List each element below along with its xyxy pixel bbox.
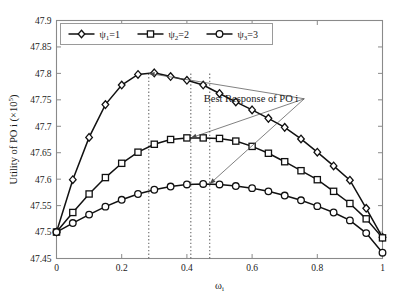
marker-square — [168, 136, 174, 142]
x-tick-label: 0.4 — [181, 263, 193, 273]
marker-square — [363, 216, 369, 222]
y-tick-label: 47.85 — [30, 42, 52, 52]
marker-circle — [70, 220, 77, 227]
marker-square — [151, 141, 157, 147]
legend[interactable]: ψ1=1ψ2=2ψ3=3 — [61, 24, 273, 45]
marker-circle — [281, 192, 288, 199]
marker-square — [331, 188, 337, 194]
marker-square — [200, 135, 206, 141]
y-tick-label: 47.9 — [35, 16, 52, 26]
annotation-label: Best Response of PO i — [204, 93, 299, 104]
marker-circle — [249, 185, 256, 192]
marker-square — [147, 31, 153, 37]
y-tick-label: 47.8 — [35, 69, 52, 79]
marker-circle — [118, 196, 125, 203]
y-axis-title-exponent: 5 — [7, 98, 15, 102]
x-tick-label: 1 — [380, 263, 385, 273]
marker-square — [298, 168, 304, 174]
x-tick-label: 0 — [54, 263, 59, 273]
marker-square — [184, 135, 190, 141]
marker-circle — [216, 181, 223, 188]
legend-label-value: =2 — [178, 29, 189, 40]
marker-circle — [233, 183, 240, 190]
y-tick-label: 47.7 — [35, 122, 52, 132]
marker-square — [70, 209, 76, 215]
marker-circle — [347, 217, 354, 224]
chart-figure: 47.4547.547.5547.647.6547.747.7547.847.8… — [0, 0, 405, 307]
marker-square — [347, 200, 353, 206]
marker-circle — [314, 203, 321, 210]
y-tick-label: 47.65 — [30, 148, 52, 158]
marker-circle — [167, 183, 174, 190]
marker-square — [86, 191, 92, 197]
marker-circle — [53, 229, 60, 236]
marker-circle — [135, 191, 142, 198]
marker-circle — [379, 249, 386, 256]
marker-square — [265, 150, 271, 156]
marker-circle — [330, 209, 337, 216]
y-tick-label: 47.55 — [30, 201, 52, 211]
y-axis-title: Utility of PO i (×105) — [7, 94, 20, 184]
marker-square — [233, 138, 239, 144]
marker-circle — [86, 211, 93, 218]
marker-square — [102, 174, 108, 180]
plot-background — [0, 0, 405, 307]
marker-square — [282, 159, 288, 165]
marker-square — [379, 235, 385, 241]
marker-square — [119, 160, 125, 166]
marker-circle — [102, 203, 109, 210]
legend-label-value: =3 — [247, 29, 258, 40]
x-axis-title-subscript: i — [222, 285, 224, 293]
marker-circle — [216, 31, 223, 38]
y-tick-label: 47.75 — [30, 95, 52, 105]
legend-label-value: =1 — [109, 29, 120, 40]
marker-circle — [363, 230, 370, 237]
x-tick-label: 0.2 — [116, 263, 128, 273]
marker-circle — [184, 181, 191, 188]
marker-square — [135, 149, 141, 155]
y-tick-label: 47.45 — [30, 254, 52, 264]
y-tick-label: 47.5 — [35, 227, 52, 237]
marker-square — [216, 135, 222, 141]
marker-circle — [151, 186, 158, 193]
x-tick-label: 0.8 — [311, 263, 323, 273]
marker-circle — [265, 188, 272, 195]
chart-canvas: 47.4547.547.5547.647.6547.747.7547.847.8… — [0, 0, 405, 307]
marker-circle — [200, 181, 207, 188]
x-tick-label: 0.6 — [246, 263, 258, 273]
marker-circle — [298, 197, 305, 204]
marker-square — [314, 177, 320, 183]
y-tick-label: 47.6 — [35, 175, 52, 185]
